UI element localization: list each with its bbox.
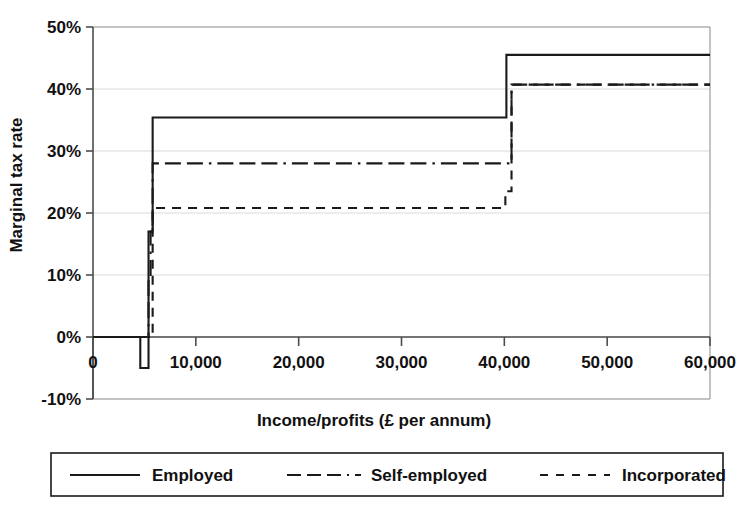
y-tick-label-0: 0% <box>56 328 81 347</box>
series-line-self-employed <box>93 85 710 337</box>
y-axis-tick-labels-group: 50%40%30%20%10%0%-10% <box>41 18 81 409</box>
y-axis-ticks-group <box>86 27 93 399</box>
x-axis-title: Income/profits (£ per annum) <box>257 411 491 430</box>
x-tick-label-0: 0 <box>88 353 97 372</box>
legend-label-incorporated: Incorporated <box>622 466 726 485</box>
x-tick-label-30000: 30,000 <box>376 353 428 372</box>
legend-label-self-employed: Self-employed <box>371 466 487 485</box>
x-tick-label-20000: 20,000 <box>273 353 325 372</box>
x-tick-label-60000: 60,000 <box>684 353 736 372</box>
series-line-employed <box>93 55 710 368</box>
x-tick-label-10000: 10,000 <box>170 353 222 372</box>
x-tick-label-40000: 40,000 <box>478 353 530 372</box>
y-tick-label-50: 50% <box>47 18 81 37</box>
chart-container: 50%40%30%20%10%0%-10% 010,00020,00030,00… <box>0 0 750 513</box>
y-tick-label-20: 20% <box>47 204 81 223</box>
x-axis-tick-labels-group: 010,00020,00030,00040,00050,00060,000 <box>88 353 736 372</box>
y-tick-label-10: 10% <box>47 266 81 285</box>
legend-items-group: EmployedSelf-employedIncorporated <box>70 466 726 485</box>
y-axis-title: Marginal tax rate <box>7 117 26 252</box>
y-tick-label--10: -10% <box>41 390 81 409</box>
x-tick-label-50000: 50,000 <box>581 353 633 372</box>
marginal-tax-rate-chart: 50%40%30%20%10%0%-10% 010,00020,00030,00… <box>0 0 750 513</box>
chart-legend: EmployedSelf-employedIncorporated <box>51 453 726 496</box>
y-tick-label-30: 30% <box>47 142 81 161</box>
legend-label-employed: Employed <box>152 466 233 485</box>
series-line-incorporated <box>93 85 710 337</box>
y-tick-label-40: 40% <box>47 80 81 99</box>
data-series-group <box>93 55 710 368</box>
